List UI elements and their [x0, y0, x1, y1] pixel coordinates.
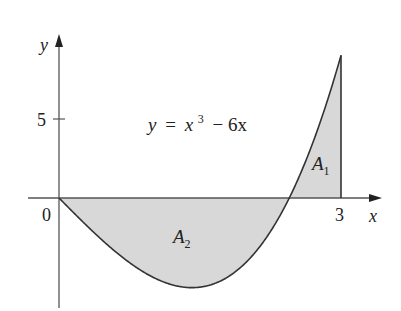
region-a1-fill: [289, 55, 341, 198]
area-chart: y x 5 0 3 y = x 3 − 6x A1 A2: [0, 0, 401, 311]
equation-label: y = x 3 − 6x: [146, 106, 248, 135]
x-axis-label: x: [368, 206, 377, 226]
y-axis-label: y: [38, 35, 48, 55]
x-axis-arrow-icon: [369, 194, 382, 202]
x-tick-label-0: 0: [42, 205, 51, 225]
svg-text:y = x 3: y = x 3 − 6x: [146, 106, 248, 135]
x-tick-label-3: 3: [335, 205, 344, 225]
y-tick-label-5: 5: [37, 110, 46, 130]
y-axis-arrow-icon: [55, 34, 63, 47]
